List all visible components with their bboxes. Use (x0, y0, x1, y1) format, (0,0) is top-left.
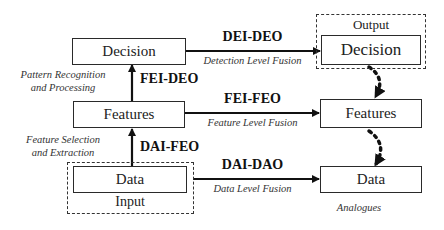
feature-selection-caption: Feature Selection and Extraction (8, 133, 118, 159)
left-decision-label: Decision (102, 43, 155, 60)
right-features-label: Features (346, 105, 397, 122)
left-features-box: Features (73, 101, 185, 128)
fei-deo-label: FEI-DEO (140, 71, 198, 87)
dai-feo-label: DAI-FEO (140, 139, 199, 155)
detection-level-fusion-caption: Detection Level Fusion (190, 55, 315, 66)
left-decision-box: Decision (72, 38, 186, 65)
left-data-label: Data (116, 171, 144, 188)
dotted-arrow-decision-to-features (369, 67, 380, 96)
input-label: Input (73, 194, 187, 210)
left-data-box: Data (73, 166, 187, 193)
right-decision-label: Decision (341, 40, 401, 60)
dotted-arrow-features-to-data (369, 131, 381, 164)
right-decision-box: Decision (321, 35, 421, 65)
dei-deo-label: DEI-DEO (195, 29, 310, 45)
fei-feo-label: FEI-FEO (195, 91, 310, 107)
right-data-label: Data (357, 171, 385, 188)
output-label: Output (316, 17, 426, 33)
feature-level-fusion-caption: Feature Level Fusion (190, 117, 315, 128)
data-level-fusion-caption: Data Level Fusion (190, 183, 315, 194)
left-features-label: Features (104, 106, 155, 123)
caption-line: Pattern Recognition (8, 68, 118, 81)
caption-line: Feature Selection (8, 133, 118, 146)
dai-dao-label: DAI-DAO (195, 157, 310, 173)
pattern-recognition-caption: Pattern Recognition and Processing (8, 68, 118, 94)
caption-line: and Processing (8, 81, 118, 94)
analogues-label: Analogues (320, 202, 398, 213)
right-data-box: Data (320, 166, 422, 193)
right-features-box: Features (320, 99, 422, 128)
caption-line: and Extraction (8, 146, 118, 159)
